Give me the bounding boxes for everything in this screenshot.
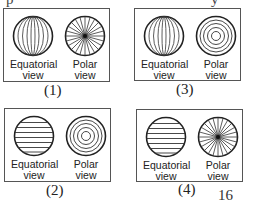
sphere-horizontal-latitudes-icon [13, 115, 55, 157]
sphere-vertical-meridians-icon [12, 15, 54, 57]
diagram-panel-1: Equatorial view Polar [3, 8, 110, 82]
equatorial-view-1: Equatorial view [10, 15, 56, 81]
equatorial-label: Equatorial view [10, 59, 56, 81]
polar-view-1: Polar view [62, 15, 108, 81]
polar-label: Polar view [62, 59, 108, 81]
panel-caption-3: (3) [176, 81, 194, 98]
equatorial-label: Equatorial view [11, 159, 57, 181]
equatorial-view-4: Equatorial view [143, 116, 189, 182]
panel-caption-2: (2) [46, 182, 64, 199]
equatorial-view-3: Equatorial view [141, 15, 187, 81]
polar-concentric-circles-icon [65, 115, 107, 157]
polar-radial-spokes-icon [197, 116, 239, 158]
polar-view-3: Polar view [193, 15, 239, 81]
equatorial-view-2: Equatorial view [11, 115, 57, 181]
polar-radial-spokes-icon [64, 15, 106, 57]
equatorial-label: Equatorial view [143, 160, 189, 182]
panel-caption-4: (4) [178, 181, 196, 198]
panel-caption-1: (1) [44, 82, 62, 99]
polar-concentric-circles-icon [195, 15, 237, 57]
top-text-fragment-left: p [6, 0, 14, 8]
polar-view-4: Polar view [195, 116, 241, 182]
diagram-panel-4: Equatorial view Polar [136, 109, 243, 182]
sphere-vertical-meridians-icon [143, 15, 185, 57]
top-text-fragment-right: y [211, 0, 219, 8]
polar-label: Polar view [195, 160, 241, 182]
page-number: 16 [218, 187, 233, 200]
polar-view-2: Polar view [63, 115, 109, 181]
polar-label: Polar view [193, 59, 239, 81]
diagram-panel-3: Equatorial view Polar view [134, 8, 241, 81]
equatorial-label: Equatorial view [141, 59, 187, 81]
polar-label: Polar view [63, 159, 109, 181]
sphere-horizontal-latitudes-icon [145, 116, 187, 158]
diagram-panel-2: Equatorial view Polar view [4, 108, 111, 182]
